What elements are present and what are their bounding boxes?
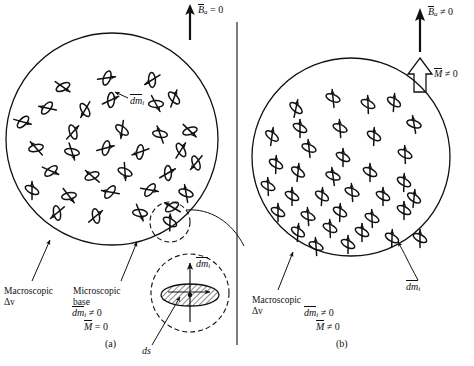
panel-b-eq1-relation: ≠ 0 — [321, 307, 334, 318]
panel-b-mag-symbol: M — [434, 68, 442, 79]
panel-a-eq2-symbol: M — [84, 321, 92, 332]
panel-b-field-symbol: B — [428, 6, 434, 17]
panel-a-ds-label: ds — [142, 345, 151, 357]
panel-a-inset-dm-subscript: i — [208, 262, 210, 270]
panel-a-dm-subscript: i — [142, 99, 144, 107]
panel-b-magnetization-label: M ≠ 0 — [434, 68, 458, 80]
panel-a-dipole-cluster — [12, 68, 209, 228]
panel-a-macroscopic-leader — [32, 240, 50, 281]
panel-a-eq1-subscript: i — [84, 311, 86, 319]
panel-b-eq1-subscript: i — [316, 311, 318, 319]
panel-b-field-relation: ≠ 0 — [440, 6, 453, 17]
panel-a-inset-center-dot — [188, 293, 192, 297]
panel-b-dm-label: dmi — [406, 281, 420, 293]
panel-a-dm-symbol: dm — [130, 95, 142, 106]
panel-b-field-label: Ba ≠ 0 — [428, 6, 453, 18]
panel-b-field-subscript: a — [434, 10, 438, 18]
panel-a-inset-dm-label: dmi — [196, 258, 210, 270]
panel-b-caption: (b) — [336, 338, 348, 350]
panel-a-field-arrow — [185, 4, 195, 40]
panel-b-macroscopic-line2: Δv — [252, 306, 301, 317]
panel-b-eq2-relation: ≠ 0 — [327, 321, 340, 332]
panel-a-macroscopic-circle — [6, 33, 218, 245]
panel-a-magnifier-connector-top — [186, 210, 244, 246]
panel-a-inset-dm-symbol: dm — [196, 258, 208, 269]
panel-a-microscopic-leader — [121, 242, 137, 281]
panel-b-eq1-symbol: dm — [304, 307, 316, 318]
panel-a-field-label: Ba = 0 — [198, 4, 223, 16]
panel-a-dm-label: dmi — [130, 95, 144, 107]
panel-a-eq1-symbol: dm — [72, 307, 84, 318]
panel-b-dm-subscript: i — [418, 285, 420, 293]
panel-a-macroscopic-line1: Macroscopic — [4, 286, 53, 297]
panel-b-eq2-symbol: M — [316, 321, 324, 332]
panel-b-equation-m: M ≠ 0 — [316, 321, 340, 333]
panel-a-macroscopic-annotation: Macroscopic Δv — [4, 286, 53, 308]
panel-a-caption: (a) — [105, 338, 116, 350]
panel-b-dm-leader — [398, 242, 418, 280]
figure-canvas: Ba = 0 dmi Macroscopic Δv Microscopic ba… — [0, 0, 474, 366]
panel-a-field-relation: = 0 — [210, 4, 223, 15]
panel-a-ds-leader — [152, 297, 180, 345]
panel-b-field-arrow — [415, 8, 425, 52]
panel-b-macroscopic-annotation: Macroscopic Δv — [252, 295, 301, 317]
panel-a-eq1-relation: ≠ 0 — [89, 307, 102, 318]
panel-b-macroscopic-leader — [278, 252, 293, 290]
panel-a-equation-m: M = 0 — [84, 321, 108, 333]
panel-a-microscopic-annotation: Microscopic base — [73, 286, 121, 308]
panel-b-dm-symbol: dm — [406, 281, 418, 292]
panel-a-microscopic-line1: Microscopic — [73, 286, 121, 297]
panel-b-mag-relation: ≠ 0 — [445, 68, 458, 79]
panel-a-eq2-relation: = 0 — [95, 321, 108, 332]
panel-a-equation-dm: dmi ≠ 0 — [72, 307, 102, 319]
panel-b-equation-dm: dmi ≠ 0 — [304, 307, 334, 319]
panel-a-macroscopic-line2: Δv — [4, 297, 53, 308]
panel-b-macroscopic-line1: Macroscopic — [252, 295, 301, 306]
panel-a-field-symbol: B — [198, 4, 204, 15]
panel-a-field-subscript: a — [204, 8, 208, 16]
